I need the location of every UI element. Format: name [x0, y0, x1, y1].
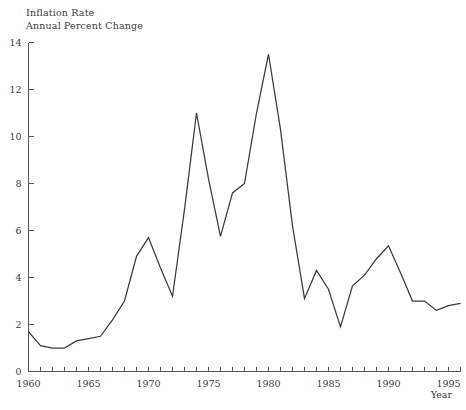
x-axis-title: Year: [430, 389, 453, 400]
y-tick-label: 2: [15, 319, 21, 330]
x-tick-label: 1965: [76, 378, 100, 389]
inflation-rate-chart: Inflation Rate Annual Percent Change 024…: [0, 0, 466, 410]
x-tick-label: 1995: [436, 378, 460, 389]
y-tick-label: 4: [15, 272, 21, 283]
y-axis: 02468101214: [9, 37, 33, 377]
chart-title-block: Inflation Rate Annual Percent Change: [26, 6, 143, 32]
x-tick-label: 1970: [136, 378, 160, 389]
y-tick-label: 14: [9, 37, 21, 48]
x-tick-label: 1985: [316, 378, 340, 389]
y-tick-label: 8: [15, 178, 21, 189]
x-tick-label: 1980: [256, 378, 280, 389]
data-series-line: [29, 54, 461, 348]
y-tick-label: 10: [9, 131, 21, 142]
page-title: Inflation Rate: [26, 6, 143, 19]
chart-subtitle: Annual Percent Change: [26, 19, 143, 32]
chart-plot-area: 02468101214 1960196519701975198019851990…: [0, 0, 466, 410]
data-series-group: [29, 54, 461, 348]
y-tick-label: 0: [15, 366, 21, 377]
y-tick-label: 12: [9, 84, 21, 95]
x-axis: 19601965197019751980198519901995: [16, 367, 460, 389]
y-tick-label: 6: [15, 225, 21, 236]
x-tick-label: 1990: [376, 378, 400, 389]
x-tick-label: 1975: [196, 378, 220, 389]
x-tick-label: 1960: [16, 378, 40, 389]
